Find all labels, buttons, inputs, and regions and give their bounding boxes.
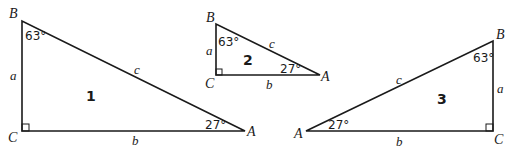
triangle-3-angle-b: 63° xyxy=(473,51,494,65)
triangle-3-side-c: c xyxy=(396,72,402,87)
triangle-2-outline xyxy=(216,24,320,75)
triangle-2-number: 2 xyxy=(243,52,253,68)
similar-triangles-diagram: B C A a b c 63° 27° 1 B C A a b c 63° 27… xyxy=(0,0,517,152)
triangle-3-vertex-b: B xyxy=(496,27,505,42)
triangle-1-angle-b: 63° xyxy=(25,29,46,43)
triangle-3-angle-a: 27° xyxy=(328,118,349,132)
triangle-2-vertex-c: C xyxy=(205,76,215,91)
triangle-3: B C A a b c 63° 27° 3 xyxy=(293,27,505,149)
triangle-1-vertex-c: C xyxy=(8,130,18,145)
triangle-1-vertex-b: B xyxy=(9,6,18,21)
triangle-1-side-a: a xyxy=(10,68,17,83)
triangle-2-angle-a: 27° xyxy=(280,62,301,76)
triangle-2-side-a: a xyxy=(206,43,213,58)
triangle-1-side-b: b xyxy=(132,133,139,148)
triangle-1: B C A a b c 63° 27° 1 xyxy=(8,6,256,148)
triangle-1-right-angle-marker xyxy=(22,124,29,131)
triangle-1-side-c: c xyxy=(134,62,140,77)
triangle-3-right-angle-marker xyxy=(486,124,493,131)
triangle-2-side-b: b xyxy=(266,77,273,92)
triangle-1-number: 1 xyxy=(86,88,96,104)
triangle-3-vertex-a: A xyxy=(293,126,303,141)
triangle-3-side-a: a xyxy=(497,81,504,96)
triangle-1-angle-a: 27° xyxy=(205,118,226,132)
triangle-2-side-c: c xyxy=(269,36,275,51)
triangle-3-side-b: b xyxy=(396,134,403,149)
triangle-1-vertex-a: A xyxy=(246,124,256,139)
triangle-3-number: 3 xyxy=(437,91,447,107)
triangle-2-vertex-a: A xyxy=(320,69,330,84)
triangle-2: B C A a b c 63° 27° 2 xyxy=(205,10,330,92)
triangle-2-angle-b: 63° xyxy=(218,35,239,49)
triangle-2-vertex-b: B xyxy=(206,10,215,25)
triangle-3-vertex-c: C xyxy=(494,132,504,147)
triangle-2-right-angle-marker xyxy=(216,69,222,75)
